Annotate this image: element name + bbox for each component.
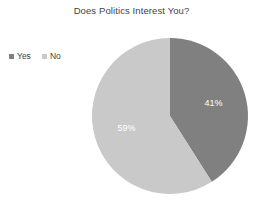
- pie-svg: 41%59%: [0, 0, 263, 215]
- pie-slice-label-no: 59%: [118, 123, 136, 133]
- pie-area: 41%59%: [0, 0, 263, 215]
- pie-slice-label-yes: 41%: [204, 98, 222, 108]
- pie-chart-figure: Does Politics Interest You? Yes No 41%59…: [0, 0, 263, 215]
